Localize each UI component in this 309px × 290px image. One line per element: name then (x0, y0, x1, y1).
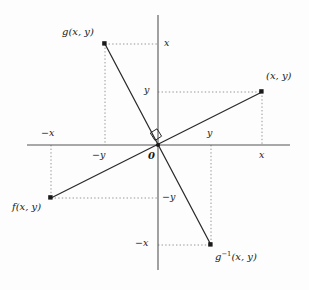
right-angle-marker (150, 129, 161, 141)
label-point-xy: (x, y) (266, 71, 291, 81)
point-f-xy[interactable] (48, 195, 52, 199)
label-point-g-inverse-xy-text: g−1(x, y) (215, 251, 257, 262)
tick-label-y-upper: y (144, 85, 149, 95)
tick-label-neg-y-lower: −y (162, 192, 175, 202)
point-g-inverse-xy[interactable] (208, 242, 212, 246)
point-xy[interactable] (259, 89, 263, 93)
label-point-g-inverse-xy: g−1(x, y) (215, 252, 257, 262)
label-point-g-xy: g(x, y) (62, 27, 94, 37)
tick-label-neg-x-lower: −x (135, 238, 148, 248)
diagram-canvas (0, 0, 309, 290)
tick-label-x-right: x (259, 150, 264, 160)
tick-label-neg-y-left: −y (92, 150, 105, 160)
axes (27, 15, 290, 270)
tick-label-x-top: x (164, 38, 169, 48)
label-point-g-xy-text: g(x, y) (62, 26, 94, 37)
label-point-f-xy: f(x, y) (12, 202, 41, 212)
origin-point (156, 143, 160, 147)
tick-label-y-right: y (207, 128, 212, 138)
tick-label-neg-x-left: −x (41, 128, 54, 138)
label-point-f-xy-text: f(x, y) (12, 201, 41, 212)
label-point-xy-text: (x, y) (266, 70, 291, 81)
origin-label: 0 (148, 151, 155, 161)
plotted-points (48, 41, 263, 246)
coordinate-diagram: g(x, y) (x, y) f(x, y) g−1(x, y) x y −x … (0, 0, 309, 290)
point-g-xy[interactable] (102, 41, 106, 45)
